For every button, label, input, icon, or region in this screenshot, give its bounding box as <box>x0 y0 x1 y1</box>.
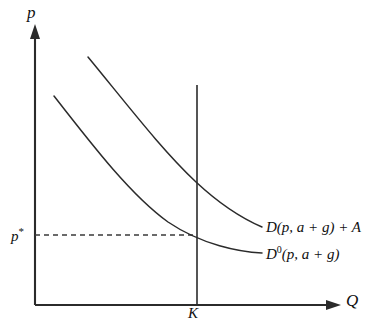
demand-curve-baseline-symbol: D <box>266 246 277 262</box>
demand-curve-baseline-label: D0(p, a + g) <box>266 245 339 262</box>
demand-curve-shifted-args: (p, a + g) + A <box>277 219 361 235</box>
economics-diagram-figure: p Q p* K D(p, a + g) + A D0(p, a + g) <box>0 0 374 329</box>
demand-curve-baseline-args: (p, a + g) <box>282 246 340 262</box>
price-axis-arrowhead <box>30 24 40 39</box>
diagram-canvas <box>0 0 374 329</box>
quantity-axis-arrowhead <box>326 300 341 310</box>
price-axis-label: p <box>27 4 36 21</box>
price-star-tick-label: p* <box>11 226 24 244</box>
capacity-tick-label: K <box>188 306 198 321</box>
demand-curve-shifted-symbol: D <box>266 219 277 235</box>
price-star-asterisk: * <box>19 225 25 237</box>
demand-curve-baseline <box>54 96 262 253</box>
demand-curve-shifted <box>88 57 262 227</box>
demand-curve-shifted-label: D(p, a + g) + A <box>266 220 361 235</box>
price-star-base: p <box>11 228 19 244</box>
quantity-axis-label: Q <box>346 292 358 309</box>
